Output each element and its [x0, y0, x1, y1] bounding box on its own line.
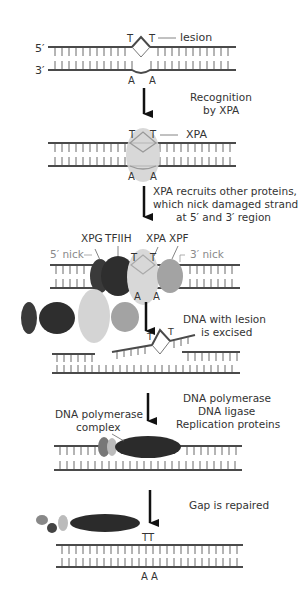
- step3-caption-line3: at 5′ and 3′ region: [176, 211, 271, 223]
- base-t2: T: [149, 129, 157, 140]
- base-a2: A: [150, 171, 157, 182]
- released-protein-1: [36, 515, 48, 525]
- dna-polymerase-released: [70, 514, 140, 532]
- step2-xpa-recognition: T T A A XPA: [48, 128, 236, 182]
- base-a1: A: [128, 171, 135, 182]
- step5-caption-line3: Replication proteins: [176, 418, 280, 430]
- base-t2: T: [148, 33, 156, 44]
- xpf-protein: [157, 259, 183, 293]
- step2-caption-line2: by XPA: [203, 104, 240, 116]
- base-a1: A: [134, 291, 141, 302]
- complex-label-line1: DNA polymerase: [55, 408, 143, 420]
- tfiih-protein-released: [39, 302, 75, 334]
- base-tt: TT: [141, 532, 155, 543]
- step3-caption-line2: which nick damaged strand: [153, 198, 298, 210]
- step5-caption-line2: DNA ligase: [198, 405, 255, 417]
- base-aa: A A: [141, 571, 158, 582]
- released-protein-3: [58, 515, 68, 531]
- step4-caption-line2: is excised: [201, 326, 252, 338]
- step6-repaired-dna: TT A A: [36, 514, 243, 582]
- base-pair-ticks: [55, 48, 228, 69]
- xpf-label: XPF: [169, 232, 189, 244]
- xpg-label: XPG: [81, 232, 103, 244]
- xpa-protein-released: [78, 289, 110, 343]
- base-t2: T: [149, 252, 157, 263]
- tfiih-label: TFIIH: [104, 232, 132, 244]
- label-5prime: 5′: [35, 42, 45, 55]
- base-t1: T: [146, 331, 153, 342]
- xpa-label: XPA: [146, 232, 167, 244]
- xpa-label: XPA: [186, 128, 207, 141]
- step3-caption-line1: XPA recruits other proteins,: [153, 185, 297, 197]
- step5-caption-line1: DNA polymerase: [183, 392, 271, 404]
- base-a2: A: [153, 291, 160, 302]
- base-a2: A: [149, 75, 156, 86]
- bottom-strand: [48, 70, 236, 73]
- step2-caption-line1: Recognition: [190, 91, 252, 103]
- xpf-protein-released: [111, 302, 139, 332]
- released-protein-2: [47, 523, 57, 533]
- step5-polymerase-fill: [54, 434, 242, 470]
- nick5-label: 5′ nick: [50, 248, 85, 260]
- lesion-label: lesion: [180, 31, 212, 44]
- base-t1: T: [128, 129, 136, 140]
- label-3prime: 3′: [35, 64, 45, 77]
- step1-damaged-dna: 5′ 3′ T T A A lesion: [35, 31, 236, 86]
- base-t2: T: [167, 326, 174, 337]
- nick3-label: 3′ nick: [190, 248, 225, 260]
- nucleotide-excision-repair-diagram: 5′ 3′ T T A A lesion Recognition by XPA …: [0, 0, 306, 593]
- base-a1: A: [128, 75, 135, 86]
- base-t1: T: [130, 252, 138, 263]
- step4-caption-line1: DNA with lesion: [183, 313, 266, 325]
- dna-polymerase: [115, 436, 181, 458]
- complex-label-line2: complex: [76, 421, 121, 433]
- xpg-protein-released: [21, 302, 37, 334]
- step6-caption: Gap is repaired: [189, 499, 269, 511]
- excised-fragment: [112, 330, 195, 352]
- base-t1: T: [126, 33, 134, 44]
- lesion-diamond: [132, 47, 150, 57]
- step3-protein-complex: XPG TFIIH XPA XPF 5′ nick 3′ nick T T A …: [50, 232, 240, 305]
